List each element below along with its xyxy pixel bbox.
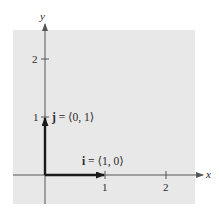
vector-j-components: = ⟨0, 1⟩ bbox=[56, 111, 94, 124]
plot-panel bbox=[13, 30, 195, 204]
vector-i-label: i = ⟨1, 0⟩ bbox=[82, 155, 124, 168]
diagram-svg: y x 1 2 1 2 j = ⟨0, 1⟩ i = ⟨1, 0⟩ bbox=[0, 0, 219, 214]
y-tick-label-1: 1 bbox=[33, 111, 39, 123]
x-axis-label: x bbox=[205, 168, 211, 180]
vector-j-label: j = ⟨0, 1⟩ bbox=[51, 111, 94, 124]
x-tick-label-1: 1 bbox=[102, 181, 108, 193]
unit-vector-diagram: y x 1 2 1 2 j = ⟨0, 1⟩ i = ⟨1, 0⟩ bbox=[0, 0, 219, 214]
y-axis-label: y bbox=[39, 10, 45, 22]
y-tick-label-2: 2 bbox=[32, 53, 38, 65]
x-tick-label-2: 2 bbox=[163, 181, 169, 193]
vector-i-components: = ⟨1, 0⟩ bbox=[85, 155, 123, 168]
